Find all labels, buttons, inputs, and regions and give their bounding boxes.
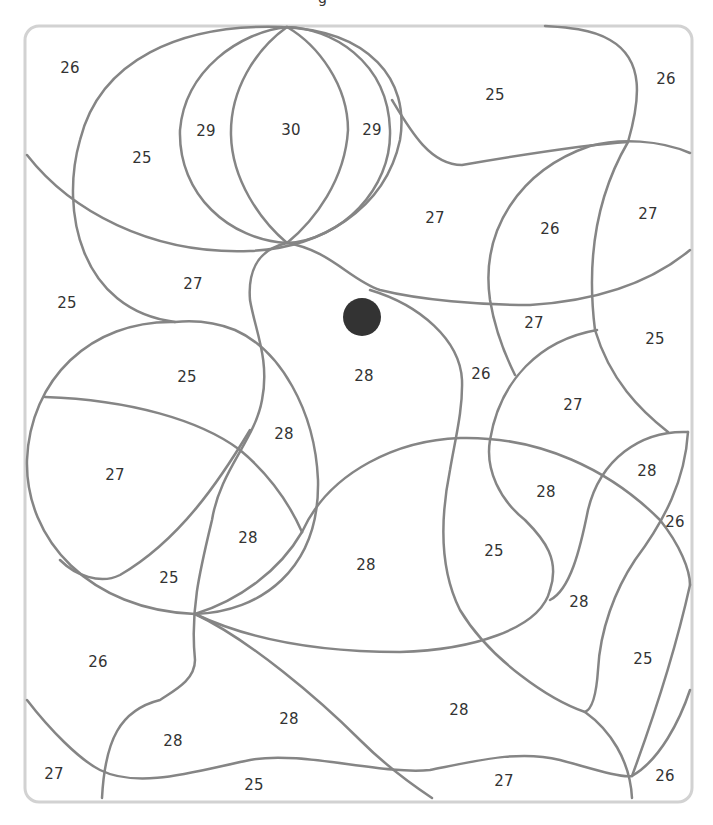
region-label: 28 — [536, 483, 556, 501]
region-label: 27 — [563, 396, 583, 414]
region-label: 25 — [177, 368, 197, 386]
region-label: 26 — [665, 513, 685, 531]
region-label: 28 — [238, 529, 258, 547]
region-label: 25 — [159, 569, 179, 587]
region-label: 30 — [281, 121, 301, 139]
region-label: 25 — [57, 294, 77, 312]
start-marker-dot — [343, 298, 381, 336]
region-label: 29 — [196, 122, 216, 140]
region-label: 28 — [354, 367, 374, 385]
region-label: 28 — [356, 556, 376, 574]
region-label: 25 — [633, 650, 653, 668]
region-label: 26 — [540, 220, 560, 238]
region-label: 26 — [471, 365, 491, 383]
region-label: 28 — [449, 701, 469, 719]
region-label: 25 — [485, 86, 505, 104]
region-label: 25 — [244, 776, 264, 794]
region-label: 28 — [279, 710, 299, 728]
region-label: 28 — [569, 593, 589, 611]
region-label: 27 — [638, 205, 658, 223]
region-label: 27 — [524, 314, 544, 332]
region-label: 26 — [655, 767, 675, 785]
region-label: 27 — [105, 466, 125, 484]
region-label: 25 — [645, 330, 665, 348]
region-label: 26 — [656, 70, 676, 88]
region-label: 28 — [163, 732, 183, 750]
coloring-canvas — [0, 0, 713, 825]
region-label: 25 — [484, 542, 504, 560]
region-label: 29 — [362, 121, 382, 139]
puzzle-frame — [25, 26, 692, 802]
region-label: 25 — [132, 149, 152, 167]
region-label: 28 — [274, 425, 294, 443]
region-label: 26 — [88, 653, 108, 671]
region-label: 27 — [44, 765, 64, 783]
region-label: 26 — [60, 59, 80, 77]
region-label: 28 — [637, 462, 657, 480]
region-label: 27 — [425, 209, 445, 227]
region-label: 27 — [494, 772, 514, 790]
region-label: 27 — [183, 275, 203, 293]
